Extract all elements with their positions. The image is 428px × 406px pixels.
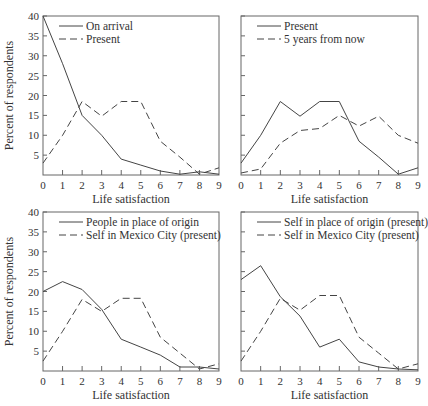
y-tick-label: 35 — [28, 226, 40, 238]
x-tick-label: 2 — [79, 179, 85, 191]
x-tick-label: 8 — [396, 375, 402, 387]
x-tick-label: 8 — [396, 179, 402, 191]
x-tick-label: 0 — [238, 375, 244, 387]
x-tick-label: 3 — [297, 179, 303, 191]
y-tick-label: 25 — [28, 70, 40, 82]
chart-panel-bottom-right: 0123456789Life satisfactionSelf in place… — [238, 212, 428, 402]
y-tick-label: 20 — [28, 286, 40, 298]
x-tick-label: 4 — [317, 179, 323, 191]
y-tick-label: 5 — [34, 149, 40, 161]
x-tick-label: 1 — [60, 179, 66, 191]
y-axis-title: Percent of respondents — [2, 41, 16, 151]
x-tick-label: 0 — [238, 179, 244, 191]
y-tick-label: 5 — [34, 345, 40, 357]
legend-label: On arrival — [86, 20, 133, 32]
x-tick-label: 7 — [177, 179, 183, 191]
y-tick-label: 15 — [28, 305, 40, 317]
x-tick-label: 5 — [337, 375, 343, 387]
x-tick-label: 7 — [376, 179, 382, 191]
x-axis-title: Life satisfaction — [291, 388, 369, 402]
x-tick-label: 3 — [297, 375, 303, 387]
x-tick-label: 5 — [337, 179, 343, 191]
x-tick-label: 4 — [118, 375, 124, 387]
x-tick-label: 9 — [216, 375, 222, 387]
x-tick-label: 3 — [99, 179, 105, 191]
x-tick-label: 3 — [99, 375, 105, 387]
x-tick-label: 9 — [216, 179, 222, 191]
chart-panel-top-right: 0123456789Life satisfactionPresent5 year… — [238, 16, 421, 206]
x-tick-label: 4 — [317, 375, 323, 387]
x-tick-label: 6 — [158, 375, 164, 387]
y-tick-label: 10 — [28, 129, 40, 141]
legend-label: Present — [284, 20, 319, 32]
chart-panel-bottom-left: 5101520253035400123456789Life satisfacti… — [2, 206, 222, 402]
y-tick-label: 40 — [28, 206, 40, 218]
x-axis-title: Life satisfaction — [92, 192, 170, 206]
series-line-dashed — [43, 298, 219, 369]
x-tick-label: 2 — [79, 375, 85, 387]
legend-label: People in place of origin — [86, 216, 199, 229]
series-line-solid — [43, 16, 219, 174]
x-tick-label: 1 — [60, 375, 66, 387]
x-tick-label: 5 — [138, 375, 144, 387]
x-tick-label: 5 — [138, 179, 144, 191]
legend-label: Self in Mexico City (present) — [86, 229, 221, 242]
x-tick-label: 0 — [40, 375, 46, 387]
chart-panel-top-left: 5101520253035400123456789Life satisfacti… — [2, 10, 222, 206]
y-tick-label: 30 — [28, 246, 40, 258]
y-tick-label: 10 — [28, 325, 40, 337]
series-line-dashed — [241, 296, 418, 370]
x-tick-label: 6 — [356, 375, 362, 387]
y-axis-title: Percent of respondents — [2, 237, 16, 347]
x-axis-title: Life satisfaction — [291, 192, 369, 206]
x-tick-label: 4 — [118, 179, 124, 191]
x-tick-label: 1 — [258, 179, 264, 191]
x-tick-label: 8 — [197, 179, 203, 191]
series-line-dashed — [43, 102, 219, 175]
y-tick-label: 15 — [28, 109, 40, 121]
series-line-solid — [241, 102, 418, 175]
y-tick-label: 30 — [28, 50, 40, 62]
x-tick-label: 2 — [278, 375, 284, 387]
chart-grid: 5101520253035400123456789Life satisfacti… — [0, 0, 428, 406]
x-tick-label: 2 — [278, 179, 284, 191]
x-tick-label: 9 — [415, 375, 421, 387]
x-tick-label: 9 — [415, 179, 421, 191]
x-tick-label: 7 — [177, 375, 183, 387]
x-tick-label: 0 — [40, 179, 46, 191]
x-tick-label: 6 — [356, 179, 362, 191]
x-tick-label: 8 — [197, 375, 203, 387]
y-tick-label: 20 — [28, 90, 40, 102]
series-line-solid — [241, 266, 418, 370]
x-tick-label: 1 — [258, 375, 264, 387]
legend-label: 5 years from now — [284, 33, 365, 46]
y-tick-label: 25 — [28, 266, 40, 278]
legend-label: Self in Mexico City (present) — [284, 229, 419, 242]
plot-frame — [43, 16, 219, 175]
y-tick-label: 35 — [28, 30, 40, 42]
x-tick-label: 6 — [158, 179, 164, 191]
legend-label: Present — [86, 33, 121, 45]
x-axis-title: Life satisfaction — [92, 388, 170, 402]
x-tick-label: 7 — [376, 375, 382, 387]
y-tick-label: 40 — [28, 10, 40, 22]
series-line-solid — [43, 282, 219, 369]
legend-label: Self in place of origin (present) — [284, 216, 428, 229]
